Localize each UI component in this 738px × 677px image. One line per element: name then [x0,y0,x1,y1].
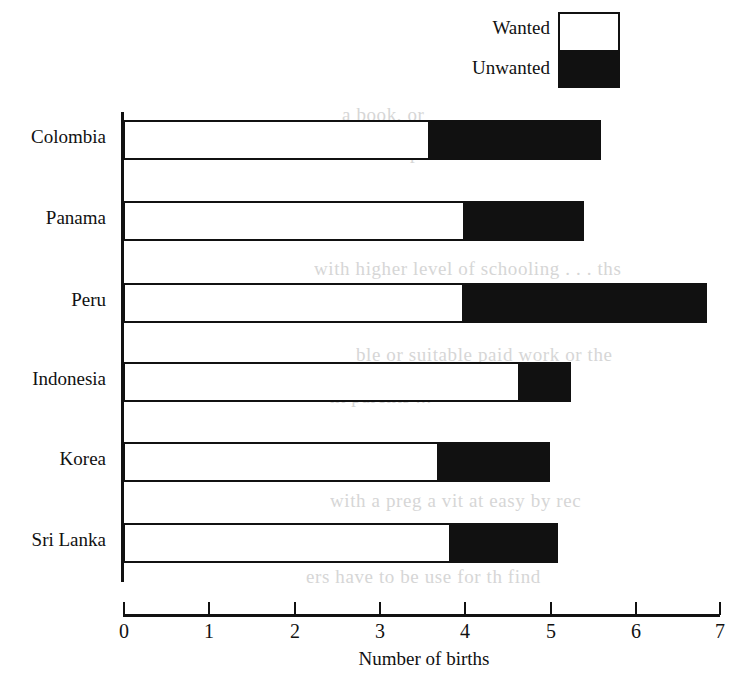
x-tick-label-6: 6 [616,620,656,643]
x-axis-line [123,614,720,617]
x-tick-label-4: 4 [445,620,485,643]
bar-indonesia-unwanted [518,362,571,402]
x-tick-3 [379,602,381,615]
x-tick-0 [123,602,125,615]
x-tick-4 [464,602,466,615]
x-tick-label-5: 5 [531,620,571,643]
legend-swatch-unwanted [560,50,618,86]
category-label-korea: Korea [60,448,106,470]
chart-legend: Wanted Unwanted [440,8,630,94]
bar-peru [123,283,707,323]
bar-korea [123,442,550,482]
x-axis-title: Number of births [0,648,738,670]
x-tick-label-0: 0 [104,620,144,643]
category-label-indonesia: Indonesia [32,368,106,390]
legend-item-wanted-label: Wanted [440,8,550,48]
x-tick-label-2: 2 [275,620,315,643]
bar-panama [123,201,584,241]
bar-srilanka-unwanted [449,523,558,563]
bar-peru-unwanted [462,283,707,323]
legend-item-unwanted-label: Unwanted [440,48,550,88]
category-label-srilanka: Sri Lanka [32,529,106,551]
category-label-peru: Peru [71,289,106,311]
x-tick-2 [294,602,296,615]
x-tick-label-3: 3 [360,620,400,643]
bar-indonesia [123,362,571,402]
bar-colombia-unwanted [428,120,601,160]
bar-korea-unwanted [437,442,550,482]
category-label-panama: Panama [46,207,106,229]
bar-srilanka [123,523,558,563]
bar-chart: a book, or don't complain n with higher … [0,0,738,677]
category-label-colombia: Colombia [31,126,106,148]
x-tick-6 [635,602,637,615]
plot-area: Colombia Panama Peru Indonesia Korea Sri… [0,100,738,600]
x-tick-1 [208,602,210,615]
x-tick-5 [550,602,552,615]
x-axis: 0 1 2 3 4 5 6 7 Number of births [0,596,738,677]
category-axis-labels: Colombia Panama Peru Indonesia Korea Sri… [0,100,112,580]
bar-series-group [123,100,733,590]
bar-colombia [123,120,601,160]
x-tick-label-1: 1 [189,620,229,643]
legend-label-list: Wanted Unwanted [440,8,550,88]
x-tick-label-7: 7 [700,620,738,643]
bar-panama-unwanted [463,201,584,241]
legend-swatch-box [558,12,620,88]
x-tick-7 [719,602,721,615]
